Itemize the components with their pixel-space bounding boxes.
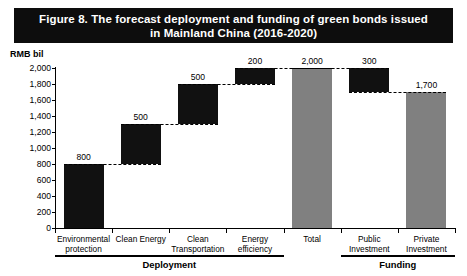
category-label-line: Investment	[341, 245, 398, 255]
x-axis-tick-mark	[169, 229, 170, 233]
y-axis-tick-mark	[52, 180, 55, 181]
x-axis-category-label: Clean Energy	[112, 235, 169, 245]
y-axis-line	[55, 67, 56, 229]
figure-title-line-2: in Mainland China (2016-2020)	[150, 27, 317, 39]
y-axis-tick-labels: 02004006008001,0001,2001,4001,6001,8002,…	[0, 0, 51, 276]
bar-environmental-protection	[64, 164, 104, 228]
waterfall-connector-line	[292, 68, 389, 69]
waterfall-connector-line	[64, 164, 161, 165]
x-axis-tick-mark	[55, 229, 56, 233]
x-axis-tick-mark	[284, 229, 285, 233]
y-axis-tick-mark	[52, 212, 55, 213]
x-axis-tick-mark	[112, 229, 113, 233]
category-label-line: Transportation	[169, 245, 226, 255]
bar-value-label: 2,000	[282, 57, 342, 66]
category-label-line: Investment	[398, 245, 455, 255]
y-axis-tick-label: 1,000	[29, 144, 51, 153]
waterfall-connector-line	[121, 124, 218, 125]
x-axis-tick-mark	[226, 229, 227, 233]
x-axis-category-label: CleanTransportation	[169, 235, 226, 254]
bar-value-label: 200	[225, 57, 285, 66]
x-axis-category-label: Total	[284, 235, 341, 245]
x-axis-tick-mark	[341, 229, 342, 233]
group-underline-funding	[341, 255, 455, 257]
bar-value-label: 500	[168, 73, 228, 82]
y-axis-tick-label: 800	[37, 160, 51, 169]
bar-public-investment	[349, 68, 389, 92]
bar-value-label: 1,700	[396, 81, 456, 90]
y-axis-tick-label: 200	[37, 208, 51, 217]
y-axis-tick-mark	[52, 100, 55, 101]
y-axis-tick-mark	[52, 132, 55, 133]
waterfall-connector-line	[178, 84, 275, 85]
y-axis-tick-label: 600	[37, 176, 51, 185]
bar-energy-efficiency	[235, 68, 275, 84]
y-axis-tick-label: 1,400	[29, 112, 51, 121]
group-label-deployment: Deployment	[55, 259, 284, 270]
category-label-line: Clean Energy	[112, 235, 169, 245]
x-axis-category-label: Energyefficiency	[226, 235, 283, 254]
x-axis-line	[55, 228, 456, 229]
y-axis-tick-label: 2,000	[29, 64, 51, 73]
figure-title-banner: Figure 8. The forecast deployment and fu…	[14, 8, 453, 43]
y-axis-tick-label: 1,600	[29, 96, 51, 105]
bar-private-investment	[406, 92, 446, 228]
y-axis-tick-mark	[52, 196, 55, 197]
y-axis-tick-mark	[52, 84, 55, 85]
y-axis-tick-mark	[52, 164, 55, 165]
bar-clean-energy	[121, 124, 161, 164]
y-axis-tick-label: 1,800	[29, 80, 51, 89]
y-axis-tick-mark	[52, 68, 55, 69]
figure-title-line-1: Figure 8. The forecast deployment and fu…	[39, 13, 428, 25]
bar-value-label: 500	[111, 113, 171, 122]
y-axis-tick-mark	[52, 116, 55, 117]
bar-clean-transportation	[178, 84, 218, 124]
category-label-line: efficiency	[226, 245, 283, 255]
bar-total	[292, 68, 332, 228]
bar-value-label: 300	[339, 57, 399, 66]
y-axis-tick-label: 1,200	[29, 128, 51, 137]
x-axis-category-label: Environmentalprotection	[55, 235, 112, 254]
x-axis-tick-mark	[398, 229, 399, 233]
bar-value-label: 800	[54, 153, 114, 162]
category-label-line: Total	[284, 235, 341, 245]
x-axis-category-label: PublicInvestment	[341, 235, 398, 254]
group-underline-deployment	[55, 255, 284, 257]
group-label-funding: Funding	[341, 259, 455, 270]
y-axis-tick-label: 0	[46, 224, 51, 233]
figure-title-text: Figure 8. The forecast deployment and fu…	[31, 12, 436, 40]
waterfall-connector-line	[349, 92, 446, 93]
y-axis-tick-label: 400	[37, 192, 51, 201]
y-axis-tick-mark	[52, 148, 55, 149]
category-label-line: protection	[55, 245, 112, 255]
x-axis-category-label: PrivateInvestment	[398, 235, 455, 254]
x-axis-tick-mark	[455, 229, 456, 233]
